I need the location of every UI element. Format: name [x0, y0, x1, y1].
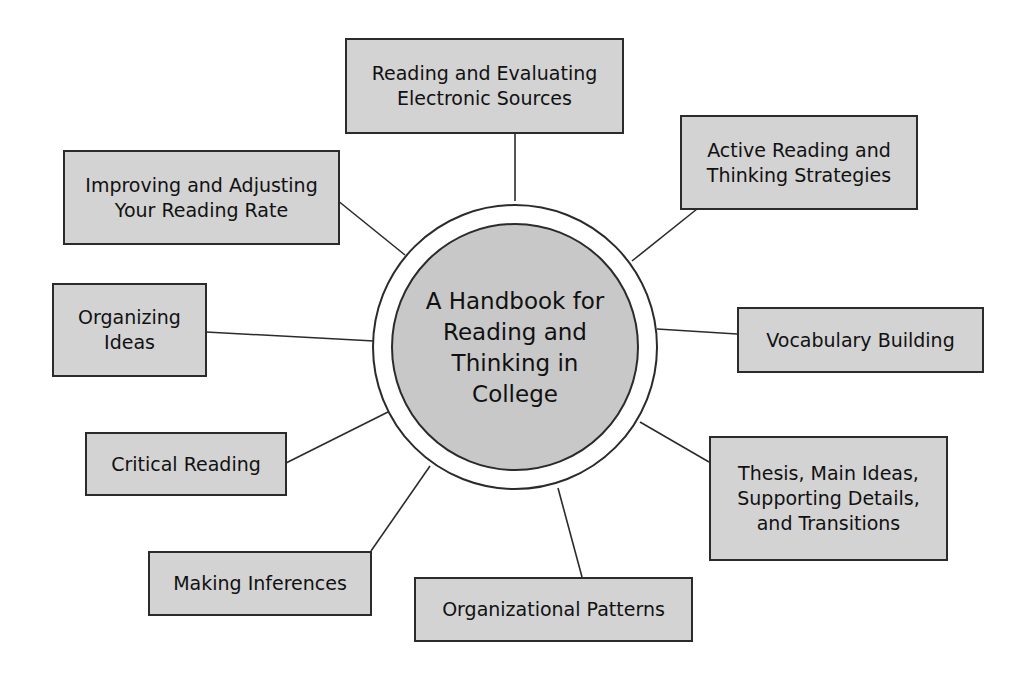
connector-thesis [640, 422, 709, 462]
connector-critical-reading [286, 412, 388, 463]
connector-making-inferences [371, 466, 430, 551]
node-organizational-patterns[interactable]: Organizational Patterns [414, 577, 693, 642]
connector-vocabulary [657, 329, 737, 334]
node-organizing-ideas[interactable]: Organizing Ideas [52, 283, 207, 377]
connector-active-reading [632, 209, 697, 261]
node-thesis[interactable]: Thesis, Main Ideas, Supporting Details, … [709, 436, 948, 561]
hub-title: A Handbook for Reading and Thinking in C… [393, 226, 637, 470]
node-reading-rate[interactable]: Improving and Adjusting Your Reading Rat… [63, 150, 340, 245]
connector-organizational-patterns [558, 488, 582, 577]
concept-map-diagram: A Handbook for Reading and Thinking in C… [0, 0, 1028, 680]
node-critical-reading[interactable]: Critical Reading [85, 432, 287, 496]
node-making-inferences[interactable]: Making Inferences [148, 551, 372, 616]
node-electronic-sources[interactable]: Reading and Evaluating Electronic Source… [345, 38, 624, 134]
node-active-reading[interactable]: Active Reading and Thinking Strategies [680, 115, 918, 210]
node-vocabulary[interactable]: Vocabulary Building [737, 307, 984, 373]
connector-organizing-ideas [206, 332, 374, 341]
